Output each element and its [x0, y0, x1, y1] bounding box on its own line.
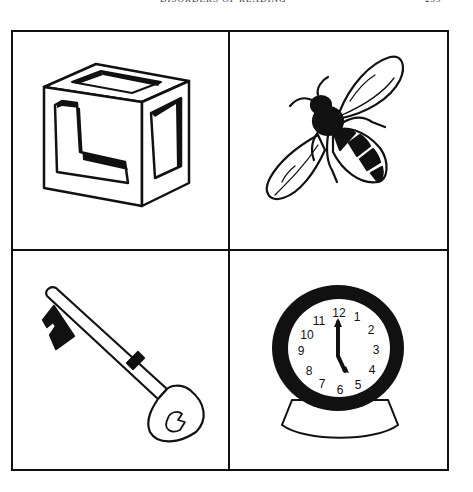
- svg-text:11: 11: [313, 314, 326, 328]
- panel-clock: 12 1 2 3 4 5 6 7 8 9 10 11: [230, 251, 449, 469]
- clock-icon: 12 1 2 3 4 5 6 7 8 9 10 11: [230, 251, 449, 469]
- svg-text:6: 6: [337, 383, 344, 397]
- header-title: DISORDERS OF READING: [160, 0, 287, 4]
- panel-bee: [230, 32, 449, 249]
- bee-icon: [230, 32, 449, 249]
- svg-text:7: 7: [319, 377, 326, 391]
- block-icon: [13, 32, 228, 249]
- panel-block: [13, 32, 228, 249]
- svg-text:1: 1: [354, 310, 361, 324]
- panel-key: [13, 251, 228, 469]
- svg-text:10: 10: [300, 328, 314, 342]
- svg-text:5: 5: [355, 378, 362, 392]
- key-icon: [13, 251, 228, 469]
- svg-text:4: 4: [369, 363, 376, 377]
- page-number: 259: [425, 0, 442, 4]
- svg-text:9: 9: [298, 344, 305, 358]
- running-header: DISORDERS OF READING 259: [0, 0, 473, 6]
- svg-text:8: 8: [306, 364, 313, 378]
- svg-text:3: 3: [373, 343, 380, 357]
- svg-text:12: 12: [332, 306, 346, 320]
- svg-text:2: 2: [368, 323, 375, 337]
